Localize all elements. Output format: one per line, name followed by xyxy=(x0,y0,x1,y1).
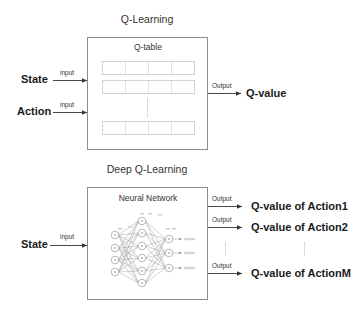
arrow-icon xyxy=(53,81,241,113)
diagram-graphics xyxy=(0,0,361,310)
neural-network-diagram xyxy=(111,213,195,287)
arrow-icon xyxy=(50,207,242,274)
